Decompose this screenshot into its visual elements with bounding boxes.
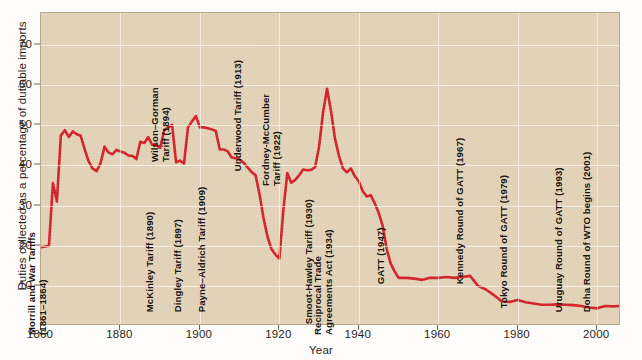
annotation-mckinley: McKinley Tariff (1890) [144, 212, 155, 313]
annotation-line: Reciprocal Trade [312, 229, 323, 335]
annotation-payne-aldrich: Payne–Aldrich Tariff (1909) [196, 187, 207, 313]
y-axis-tick-label: 60 [4, 78, 32, 90]
annotation-wilson-gorman: Wilson–GormanTariff (1894) [149, 88, 171, 163]
annotation-line: Agreements Act (1934) [323, 229, 334, 335]
y-axis-tick-mark [34, 164, 40, 165]
annotation-line: Kennedy Round of GATT (1967) [454, 138, 465, 285]
y-axis-tick-mark [34, 84, 40, 85]
gridline-horizontal [41, 125, 619, 126]
annotation-uruguay-round: Uruguay Round of GATT (1993) [553, 167, 564, 312]
x-axis-tick-mark [119, 325, 120, 330]
annotation-fordney: Fordney-McCumberTariff (1922) [260, 94, 282, 186]
y-axis-tick-mark [34, 204, 40, 205]
x-axis-tick-mark [199, 325, 200, 330]
x-axis-tick-mark [517, 325, 518, 330]
gridline-vertical [120, 13, 121, 324]
annotation-line: Wilson–Gorman [149, 88, 160, 163]
x-axis-tick-mark [358, 325, 359, 330]
gridline-horizontal [41, 45, 619, 46]
x-axis-tick-mark [437, 325, 438, 330]
annotation-dingley: Dingley Tariff (1897) [172, 219, 183, 312]
y-axis-tick-label: 30 [4, 199, 32, 211]
gridline-horizontal [41, 165, 619, 166]
y-axis-tick-label: 40 [4, 158, 32, 170]
annotation-line: Morrill and War Tariffs [26, 232, 37, 335]
gridline-horizontal [41, 85, 619, 86]
annotation-reciprocal: Reciprocal TradeAgreements Act (1934) [312, 229, 334, 335]
annotation-doha-round: Doha Round of WTO begins (2001) [581, 152, 592, 313]
annotation-gatt-1947: GATT (1947) [374, 227, 385, 284]
annotation-line: (1861–1864) [37, 232, 48, 335]
annotation-line: Tariff (1894) [160, 88, 171, 163]
y-axis-tick-mark [34, 124, 40, 125]
annotation-line: Payne–Aldrich Tariff (1909) [196, 187, 207, 313]
annotation-kennedy-round: Kennedy Round of GATT (1967) [454, 138, 465, 285]
annotation-morrill: Morrill and War Tariffs(1861–1864) [26, 232, 48, 335]
x-axis-tick-mark [278, 325, 279, 330]
gridline-vertical [518, 13, 519, 324]
annotation-line: GATT (1947) [374, 227, 385, 284]
gridline-vertical [359, 13, 360, 324]
gridline-horizontal [41, 206, 619, 207]
annotation-line: Fordney-McCumber [260, 94, 271, 186]
tariff-rate-chart-figure: Duties collected as a percentage of duti… [0, 0, 642, 360]
x-axis-title: Year [0, 344, 642, 356]
y-axis-tick-label: 70 [4, 38, 32, 50]
annotation-line: Underwood Tariff (1913) [231, 60, 242, 171]
y-axis-tick-mark [34, 44, 40, 45]
y-axis-tick-label: 50 [4, 118, 32, 130]
annotation-line: Tariff (1922) [271, 94, 282, 186]
x-axis-tick-mark [596, 325, 597, 330]
gridline-vertical [438, 13, 439, 324]
annotation-line: Dingley Tariff (1897) [172, 219, 183, 312]
annotation-underwood: Underwood Tariff (1913) [231, 60, 242, 171]
gridline-vertical [597, 13, 598, 324]
annotation-tokyo-round: Tokyo Round of GATT (1979) [497, 175, 508, 308]
annotation-line: Tokyo Round of GATT (1979) [497, 175, 508, 308]
annotation-line: McKinley Tariff (1890) [144, 212, 155, 313]
annotation-line: Uruguay Round of GATT (1993) [553, 167, 564, 312]
annotation-line: Doha Round of WTO begins (2001) [581, 152, 592, 313]
